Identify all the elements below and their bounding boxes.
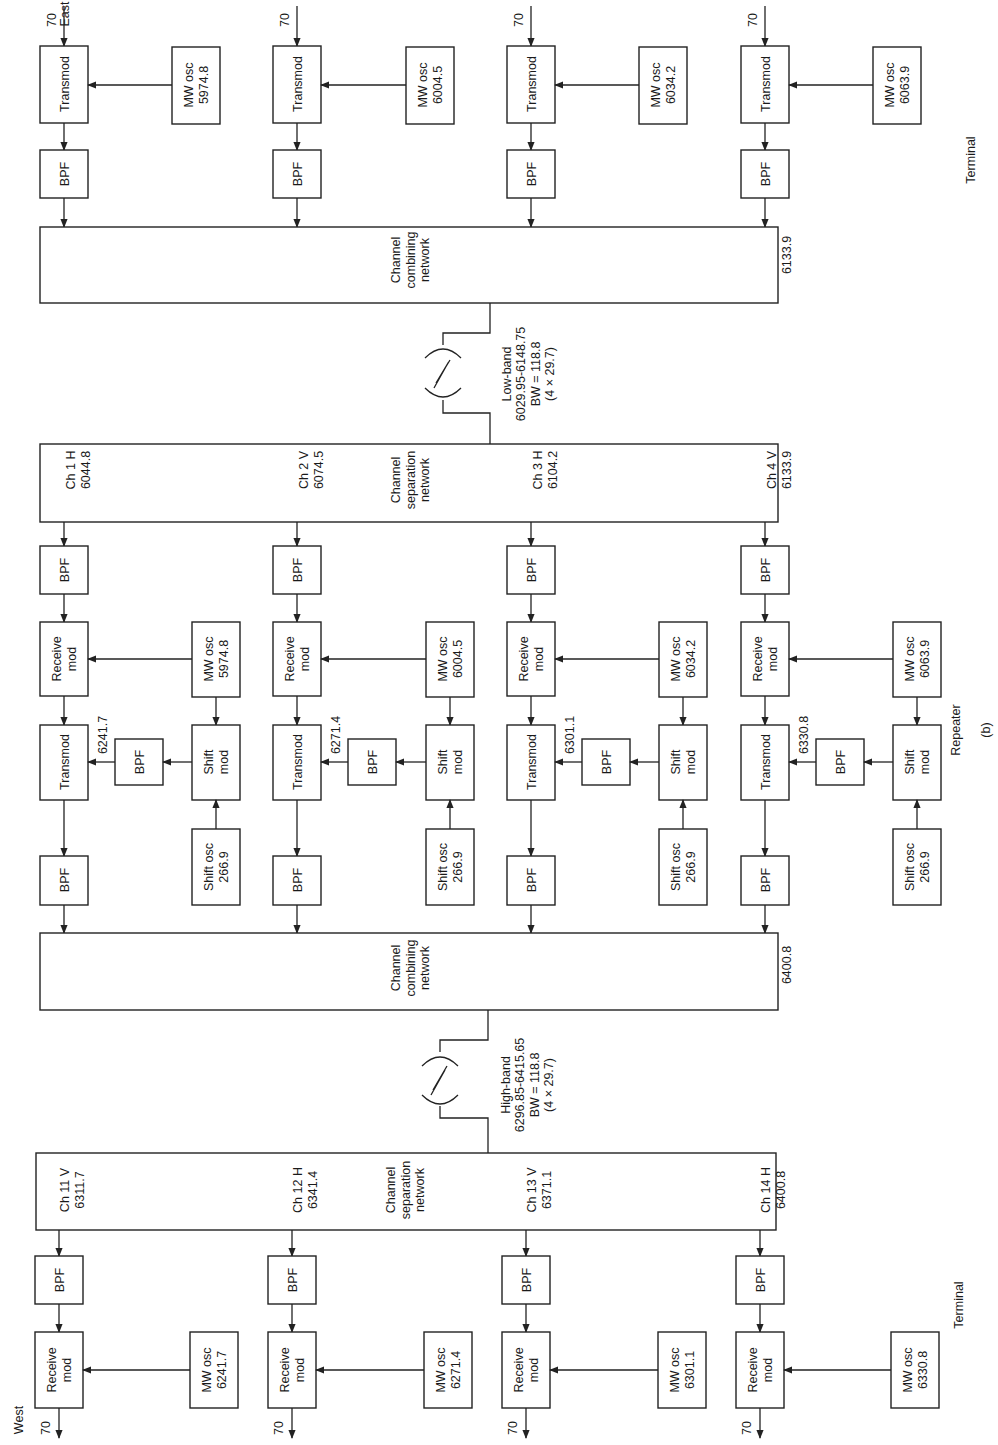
microwave-repeater-diagram: East70TransmodMW osc5974.8BPFCh 1 H6044.…: [0, 0, 998, 1445]
bpf-label: BPF: [834, 749, 848, 774]
separation-network-label: Channelseparationnetwork: [384, 1161, 427, 1219]
svg-text:6034.2: 6034.2: [684, 640, 698, 678]
svg-text:266.9: 266.9: [918, 851, 932, 882]
svg-text:BPF: BPF: [754, 1267, 768, 1292]
svg-text:6029.95-6148.75: 6029.95-6148.75: [514, 327, 528, 422]
shifted-freq-label: 6241.7: [96, 716, 110, 754]
svg-text:mod: mod: [293, 1358, 307, 1382]
output-70-label: 70: [506, 1421, 520, 1435]
svg-text:BW = 118.8: BW = 118.8: [529, 342, 543, 407]
svg-text:Receive: Receive: [746, 1347, 760, 1392]
svg-text:Ch 1 H: Ch 1 H: [64, 451, 78, 490]
svg-text:Shift osc: Shift osc: [202, 843, 216, 891]
channel-label: Ch 4 V6133.9: [765, 450, 794, 489]
svg-text:Transmod: Transmod: [759, 56, 773, 112]
link-line: [440, 1106, 488, 1153]
figure-label: (b): [979, 722, 993, 737]
svg-text:BPF: BPF: [291, 161, 305, 186]
svg-text:BPF: BPF: [366, 749, 380, 774]
svg-text:BPF: BPF: [58, 867, 72, 892]
shifted-freq-label: 6301.1: [563, 716, 577, 754]
bpf-label: BPF: [525, 867, 539, 892]
svg-text:combining: combining: [404, 939, 418, 996]
output-70-label: 70: [740, 1421, 754, 1435]
bpf-label: BPF: [759, 867, 773, 892]
svg-text:MW osc: MW osc: [416, 62, 430, 107]
svg-text:Transmod: Transmod: [58, 56, 72, 112]
channel-label: Ch 2 V6074.5: [297, 450, 326, 489]
transmod-label: Transmod: [291, 734, 305, 790]
bpf-label: BPF: [366, 749, 380, 774]
bpf-label: BPF: [53, 1267, 67, 1292]
mw-osc-label: MW osc6241.7: [200, 1347, 229, 1392]
svg-text:70: 70: [278, 13, 292, 27]
svg-text:6241.7: 6241.7: [215, 1351, 229, 1389]
svg-text:Low-band: Low-band: [500, 347, 514, 402]
transmod-label: Transmod: [525, 56, 539, 112]
svg-text:mod: mod: [766, 647, 780, 671]
svg-text:6004.5: 6004.5: [431, 66, 445, 104]
svg-text:BPF: BPF: [291, 557, 305, 582]
svg-text:mod: mod: [527, 1358, 541, 1382]
microwave-path-zigzag: [431, 1066, 447, 1095]
svg-text:6133.9: 6133.9: [780, 451, 794, 489]
svg-text:Channel: Channel: [389, 457, 403, 504]
shifted-freq-label: 6271.4: [329, 716, 343, 754]
svg-text:BPF: BPF: [759, 557, 773, 582]
svg-text:BW = 118.8: BW = 118.8: [528, 1053, 542, 1118]
svg-text:separation: separation: [399, 1161, 413, 1219]
west-label: West: [12, 1405, 26, 1434]
svg-text:High-band: High-band: [499, 1056, 513, 1114]
svg-text:MW osc: MW osc: [436, 636, 450, 681]
svg-text:BPF: BPF: [759, 161, 773, 186]
svg-text:6371.1: 6371.1: [540, 1171, 554, 1209]
svg-text:mod: mod: [684, 750, 698, 774]
svg-text:mod: mod: [298, 647, 312, 671]
svg-text:BPF: BPF: [600, 749, 614, 774]
svg-text:BPF: BPF: [286, 1267, 300, 1292]
svg-text:Ch 14 H: Ch 14 H: [759, 1167, 773, 1213]
antenna-dish: [425, 349, 461, 358]
bpf-label: BPF: [58, 161, 72, 186]
shift-mod-label: Shiftmod: [903, 749, 932, 775]
svg-text:BPF: BPF: [525, 557, 539, 582]
svg-text:5974.8: 5974.8: [217, 640, 231, 678]
svg-text:(4 × 29.7): (4 × 29.7): [543, 347, 557, 401]
input-70-label: 70: [45, 13, 59, 27]
transmod-label: Transmod: [291, 56, 305, 112]
svg-text:6044.8: 6044.8: [79, 451, 93, 489]
svg-text:MW osc: MW osc: [182, 62, 196, 107]
transmod-label: Transmod: [759, 734, 773, 790]
svg-text:BPF: BPF: [58, 557, 72, 582]
svg-text:266.9: 266.9: [684, 851, 698, 882]
combining-network-label: Channelcombiningnetwork: [389, 939, 432, 996]
svg-text:Shift: Shift: [436, 749, 450, 775]
microwave-path-zigzag: [434, 360, 450, 388]
channel-label: Ch 11 V6311.7: [58, 1167, 87, 1212]
svg-text:6400.8: 6400.8: [774, 1171, 788, 1209]
svg-text:70: 70: [272, 1421, 286, 1435]
mw-osc-label: MW osc6271.4: [434, 1347, 463, 1392]
svg-text:6104.2: 6104.2: [546, 451, 560, 489]
mw-osc-label: MW osc6301.1: [668, 1347, 697, 1392]
svg-text:6301.1: 6301.1: [563, 716, 577, 754]
output-70-label: 70: [272, 1421, 286, 1435]
svg-text:6133.9: 6133.9: [780, 236, 794, 274]
svg-text:Channel: Channel: [389, 237, 403, 284]
svg-text:Shift osc: Shift osc: [669, 843, 683, 891]
svg-text:BPF: BPF: [53, 1267, 67, 1292]
mw-osc-label: MW osc6004.5: [416, 62, 445, 107]
svg-text:BPF: BPF: [759, 867, 773, 892]
svg-text:Transmod: Transmod: [525, 56, 539, 112]
svg-text:mod: mod: [60, 1358, 74, 1382]
mw-osc-label: MW osc6063.9: [903, 636, 932, 681]
svg-text:MW osc: MW osc: [883, 62, 897, 107]
mw-osc-label: MW osc6330.8: [901, 1347, 930, 1392]
svg-text:266.9: 266.9: [451, 851, 465, 882]
channel-label: Ch 14 H6400.8: [759, 1167, 788, 1213]
svg-text:BPF: BPF: [520, 1267, 534, 1292]
svg-text:Terminal: Terminal: [964, 136, 978, 183]
svg-text:MW osc: MW osc: [669, 636, 683, 681]
bpf-label: BPF: [525, 161, 539, 186]
svg-text:separation: separation: [404, 451, 418, 509]
